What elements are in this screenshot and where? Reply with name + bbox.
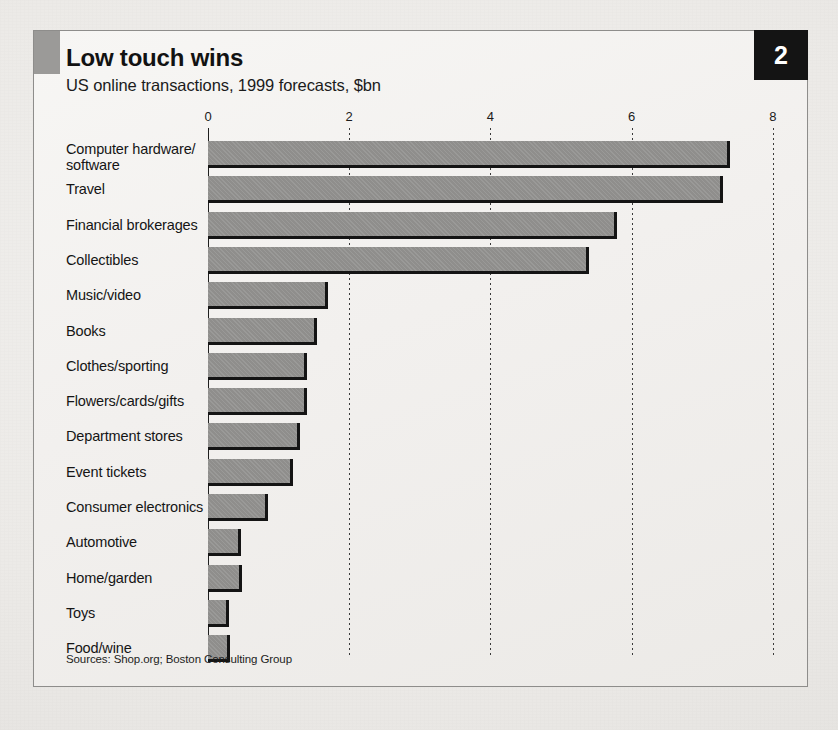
category-label: Event tickets xyxy=(66,464,146,480)
bar-row xyxy=(208,529,241,556)
category-label: Flowers/cards/gifts xyxy=(66,393,184,409)
gridline-6 xyxy=(632,128,633,658)
x-tick-label-2: 2 xyxy=(346,109,353,124)
bar xyxy=(208,176,723,203)
category-label: Home/garden xyxy=(66,570,152,586)
category-label: Computer hardware/ software xyxy=(66,141,195,173)
bar xyxy=(208,529,241,556)
gridline-4 xyxy=(490,128,491,658)
bar-row xyxy=(208,247,589,274)
bar xyxy=(208,318,317,345)
bar xyxy=(208,459,293,486)
bar xyxy=(208,353,307,380)
bar-row xyxy=(208,388,307,415)
category-label: Collectibles xyxy=(66,252,138,268)
bar-row xyxy=(208,565,242,592)
bar-row xyxy=(208,141,730,168)
category-label: Consumer electronics xyxy=(66,499,203,515)
bar-row xyxy=(208,423,300,450)
bar xyxy=(208,141,730,168)
bar-row xyxy=(208,176,723,203)
x-tick-label-8: 8 xyxy=(769,109,776,124)
category-label: Department stores xyxy=(66,428,183,444)
category-label: Toys xyxy=(66,605,95,621)
bar xyxy=(208,565,242,592)
x-tick-label-6: 6 xyxy=(628,109,635,124)
bar-row xyxy=(208,459,293,486)
bar-row xyxy=(208,353,307,380)
category-label: Automotive xyxy=(66,534,137,550)
bar xyxy=(208,212,617,239)
category-label: Clothes/sporting xyxy=(66,358,168,374)
plot-area: 02468 Computer hardware/ softwareTravelF… xyxy=(34,31,809,688)
bar xyxy=(208,247,589,274)
x-tick-label-4: 4 xyxy=(487,109,494,124)
bar-row xyxy=(208,212,617,239)
bar xyxy=(208,282,328,309)
bar-row xyxy=(208,494,268,521)
bar-row xyxy=(208,600,229,627)
bar xyxy=(208,423,300,450)
chart-figure-frame: 2 Low touch wins US online transactions,… xyxy=(33,30,808,687)
category-label: Music/video xyxy=(66,287,141,303)
gridline-2 xyxy=(349,128,350,658)
x-tick-label-0: 0 xyxy=(204,109,211,124)
bar xyxy=(208,600,229,627)
bar xyxy=(208,388,307,415)
source-note: Sources: Shop.org; Boston Consulting Gro… xyxy=(66,653,292,665)
category-label: Books xyxy=(66,323,106,339)
bar-row xyxy=(208,318,317,345)
bar xyxy=(208,494,268,521)
bar-row xyxy=(208,282,328,309)
gridline-8 xyxy=(773,128,774,658)
category-label: Financial brokerages xyxy=(66,217,198,233)
category-label: Travel xyxy=(66,181,105,197)
